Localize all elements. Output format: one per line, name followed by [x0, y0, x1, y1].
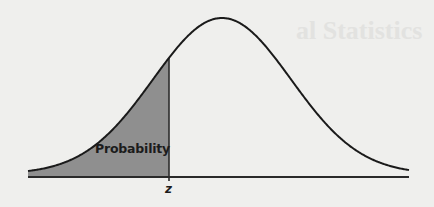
normal-curve-diagram — [0, 0, 434, 207]
normal-curve — [28, 18, 409, 171]
shaded-probability-region — [28, 58, 169, 177]
z-label: z — [165, 182, 172, 196]
probability-label: Probability — [95, 141, 170, 156]
